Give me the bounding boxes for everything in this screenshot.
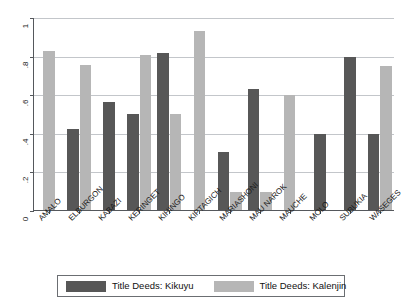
legend-color-swatch (214, 281, 254, 292)
bar (103, 102, 115, 210)
y-axis-tick-mark (30, 95, 34, 96)
legend-entry: Title Deeds: Kalenjin (214, 281, 347, 292)
bar (368, 134, 380, 210)
gridline (34, 57, 394, 58)
legend-entry: Title Deeds: Kikuyu (66, 281, 194, 292)
y-axis-tick-label: .2 (22, 172, 30, 188)
legend-label: Title Deeds: Kikuyu (112, 281, 194, 291)
y-axis-tick-mark (30, 57, 34, 58)
legend-label: Title Deeds: Kalenjin (260, 281, 347, 291)
bar (194, 31, 206, 210)
plot-area (33, 18, 394, 211)
bar (218, 152, 230, 210)
gridline (34, 18, 394, 19)
bar-chart-figure: 0.2.4.6.81 AMALOELBURGONKABAZIKERINGETKI… (0, 0, 402, 305)
bar (140, 55, 152, 210)
bar (80, 65, 92, 210)
y-axis-tick-label: 1 (22, 18, 30, 34)
y-axis-tick-label: .6 (22, 95, 30, 111)
x-axis-labels: AMALOELBURGONKABAZIKERINGETKIHINGOKIPTAG… (33, 211, 394, 267)
bar (127, 114, 139, 211)
y-axis-tick-mark (30, 134, 34, 135)
y-axis-tick-mark (30, 18, 34, 19)
bar (380, 66, 392, 210)
y-axis-tick-label: .8 (22, 57, 30, 73)
chart-legend: Title Deeds: KikuyuTitle Deeds: Kalenjin (57, 275, 345, 297)
bar (284, 95, 296, 210)
y-axis-tick-label: .4 (22, 134, 30, 150)
bar (344, 57, 356, 210)
y-axis-tick-label: 0 (22, 211, 30, 227)
legend-color-swatch (66, 281, 106, 292)
bar (43, 51, 55, 210)
y-axis-tick-mark (30, 172, 34, 173)
bar (157, 53, 169, 210)
bar (67, 129, 79, 210)
